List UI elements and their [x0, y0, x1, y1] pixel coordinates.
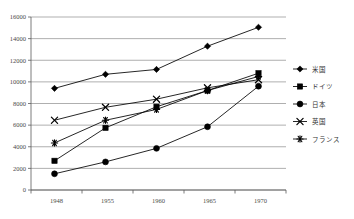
- data-point-square-marker: [52, 158, 57, 163]
- chart-canvas: 0200040006000800010000120001400016000 19…: [0, 0, 354, 219]
- y-tick-label: 10000: [10, 78, 26, 85]
- data-point-circle-marker: [297, 101, 303, 107]
- data-point-asterisk-marker: [255, 73, 261, 79]
- x-tick-label: 1960: [152, 197, 165, 204]
- y-tick-label: 2000: [13, 165, 26, 172]
- data-point-asterisk-marker: [297, 136, 303, 142]
- data-point-square-marker: [297, 84, 302, 89]
- legend-item-label: フランス: [312, 136, 340, 143]
- data-point-asterisk-marker: [153, 106, 159, 112]
- x-tick-label: 1965: [203, 197, 216, 204]
- legend-item-label: 米国: [312, 65, 326, 74]
- x-tick-label: 1970: [254, 197, 267, 204]
- legend-item-label: 日本: [312, 100, 326, 109]
- data-point-circle-marker: [52, 171, 58, 177]
- x-tick-label: 1955: [101, 197, 114, 204]
- legend-item-2[interactable]: ドイツ: [293, 83, 333, 90]
- y-tick-label: 16000: [10, 13, 26, 20]
- line-chart: 0200040006000800010000120001400016000 19…: [0, 0, 354, 219]
- data-point-asterisk-marker: [102, 117, 108, 123]
- data-point-square-marker: [103, 125, 108, 130]
- y-tick-label: 8000: [13, 100, 26, 107]
- data-point-circle-marker: [256, 83, 262, 89]
- y-tick-label: 0: [23, 186, 26, 193]
- legend-item-5[interactable]: フランス: [293, 136, 340, 143]
- data-point-asterisk-marker: [204, 87, 210, 93]
- y-tick-label: 4000: [13, 143, 26, 150]
- data-point-circle-marker: [103, 159, 109, 165]
- chart-background: [0, 0, 354, 219]
- data-point-asterisk-marker: [51, 140, 57, 146]
- legend-item-label: ドイツ: [312, 83, 333, 90]
- legend-item-label: 英国: [312, 117, 326, 126]
- y-tick-label: 12000: [10, 57, 26, 64]
- y-tick-label: 6000: [13, 121, 26, 128]
- data-point-circle-marker: [154, 145, 160, 151]
- x-tick-label: 1948: [50, 197, 63, 204]
- data-point-circle-marker: [205, 124, 211, 130]
- y-axis-tick-labels: 0200040006000800010000120001400016000: [10, 13, 26, 193]
- y-tick-label: 14000: [10, 35, 26, 42]
